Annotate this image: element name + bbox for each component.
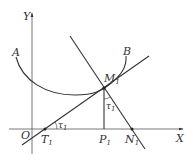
angle-t1-label: τ1 — [58, 120, 67, 132]
point-p1-label: P1 — [98, 133, 111, 147]
tangent-line — [22, 56, 149, 145]
point-m1-label: M1 — [103, 72, 120, 86]
point-t1 — [44, 128, 47, 131]
point-m1 — [102, 86, 105, 89]
angle-arc-m1 — [104, 97, 110, 99]
tangent-normal-diagram: Y X O A B M1 T1 P1 N1 τ1 τ1 — [0, 0, 193, 161]
angle-arc-t1 — [55, 122, 57, 129]
curve-start-label: A — [11, 46, 20, 59]
y-axis-label: Y — [23, 10, 32, 23]
point-n1-label: N1 — [124, 133, 139, 147]
curve-end-label: B — [122, 45, 131, 58]
point-n1 — [131, 128, 134, 131]
origin-label: O — [21, 129, 30, 142]
point-t1-label: T1 — [41, 133, 53, 147]
x-axis-label: X — [175, 132, 185, 145]
